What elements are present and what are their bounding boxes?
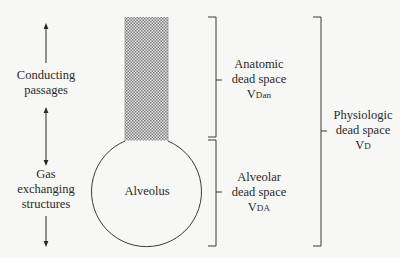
- alveolus-label: Alveolus: [117, 184, 177, 199]
- anatomic-dead-space-label: Anatomic dead space VDan: [224, 57, 294, 103]
- anatomic-symbol: VDan: [224, 87, 294, 103]
- alveolar-bracket: [208, 140, 222, 246]
- gas-exchanging-structures-label: Gas exchanging structures: [10, 167, 82, 212]
- anatomic-bracket: [208, 17, 222, 137]
- physiologic-bracket: [313, 17, 327, 246]
- dead-space-diagram: Conducting passages Gas exchanging struc…: [0, 0, 400, 258]
- physiologic-symbol: VD: [328, 138, 398, 154]
- physiologic-dead-space-label: Physiologic dead space VD: [328, 108, 398, 154]
- alveolar-symbol: VDA: [224, 200, 294, 216]
- alveolar-dead-space-label: Alveolar dead space VDA: [224, 170, 294, 216]
- conducting-airway-tube: [125, 17, 168, 143]
- conducting-passages-label: Conducting passages: [10, 68, 82, 98]
